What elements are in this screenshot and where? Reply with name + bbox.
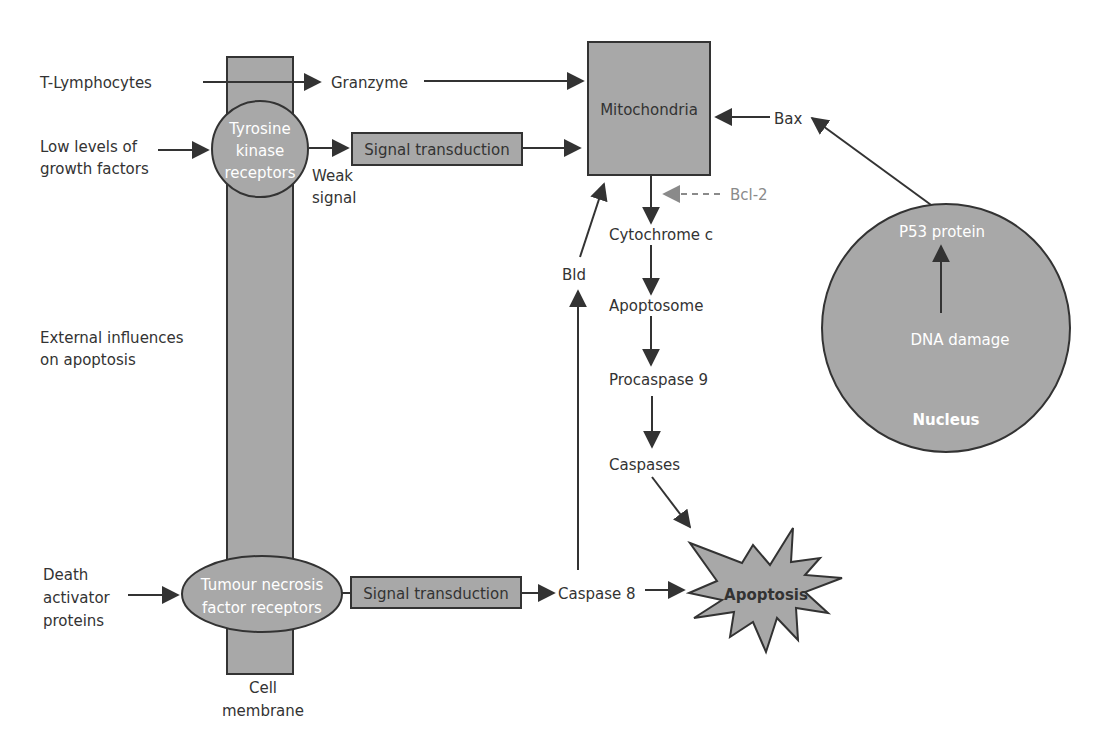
tnf-label-1: Tumour necrosis bbox=[200, 576, 324, 594]
bcl2-label: Bcl-2 bbox=[730, 186, 768, 204]
bax-label: Bax bbox=[774, 110, 802, 128]
apoptosis-label: Apoptosis bbox=[724, 586, 808, 604]
dna-damage-label: DNA damage bbox=[910, 331, 1009, 349]
t-lymphocytes-label: T-Lymphocytes bbox=[39, 74, 152, 92]
death-activator-label-2: activator bbox=[43, 589, 111, 607]
mitochondria-label: Mitochondria bbox=[600, 101, 698, 119]
growth-factors-label-2: growth factors bbox=[40, 160, 149, 178]
cell-membrane-label-1: Cell bbox=[249, 679, 277, 697]
tnf-receptor bbox=[182, 556, 342, 632]
growth-factors-label-1: Low levels of bbox=[40, 138, 138, 156]
bld-to-mitochondria-arrow bbox=[580, 184, 604, 257]
tyrosine-label-2: kinase bbox=[236, 142, 285, 160]
external-influences-label-1: External influences bbox=[40, 329, 184, 347]
signal-transduction-top-label: Signal transduction bbox=[364, 141, 509, 159]
tnf-label-2: factor receptors bbox=[202, 599, 322, 617]
weak-signal-label-1: Weak bbox=[312, 167, 353, 185]
p53-to-bax-arrow bbox=[812, 118, 938, 210]
signal-transduction-bottom-label: Signal transduction bbox=[363, 585, 508, 603]
death-activator-label-3: proteins bbox=[43, 612, 104, 630]
cell-membrane-label-2: membrane bbox=[222, 702, 304, 720]
bld-label: Bld bbox=[562, 266, 586, 284]
granzyme-label: Granzyme bbox=[331, 74, 408, 92]
cytochrome-c-label: Cytochrome c bbox=[609, 226, 713, 244]
apoptosome-label: Apoptosome bbox=[609, 297, 703, 315]
procaspase-9-label: Procaspase 9 bbox=[609, 371, 708, 389]
caspases-to-apoptosis-arrow bbox=[652, 477, 690, 527]
weak-signal-label-2: signal bbox=[312, 189, 356, 207]
tyrosine-label-1: Tyrosine bbox=[228, 120, 290, 138]
caspases-label: Caspases bbox=[609, 456, 680, 474]
external-influences-label-2: on apoptosis bbox=[40, 351, 136, 369]
p53-label: P53 protein bbox=[899, 223, 985, 241]
apoptosis-pathway-diagram: T-Lymphocytes Low levels of growth facto… bbox=[0, 0, 1106, 746]
caspase-8-label: Caspase 8 bbox=[558, 585, 636, 603]
death-activator-label-1: Death bbox=[43, 566, 88, 584]
nucleus-label: Nucleus bbox=[912, 411, 979, 429]
tyrosine-label-3: receptors bbox=[224, 164, 295, 182]
